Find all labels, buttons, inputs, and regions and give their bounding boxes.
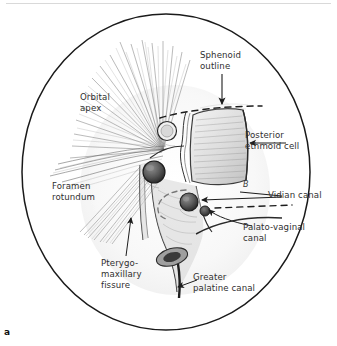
orbital-apex-opening [158,122,177,141]
label-orbital-apex: Orbital apex [80,92,110,114]
label-posterior-ethmoid-cell: Posterior ethmoid cell [245,130,299,152]
foramen-rotundum-opening [143,161,165,183]
figure-letter: a [4,327,10,337]
label-pterygomaxillary-fissure: Pterygo- maxillary fissure [101,258,142,292]
label-palato-vaginal-canal: Palato-vaginal canal [243,222,305,244]
label-vidian-canal: Vidian canal [268,190,322,201]
label-sphenoid-outline: Sphenoid outline [200,50,241,72]
label-greater-palatine-canal: Greater palatine canal [193,272,255,294]
vidian-canal-opening [180,193,198,211]
palato-vaginal-canal-opening [200,206,210,216]
figure-plate: Sphenoid outline Orbital apex Posterior … [0,0,337,346]
anatomical-illustration [0,0,337,346]
label-foramen-rotundum: Foramen rotundum [52,181,95,203]
posterior-ethmoid-cell [190,109,247,185]
handwritten-mark: B [243,180,249,189]
